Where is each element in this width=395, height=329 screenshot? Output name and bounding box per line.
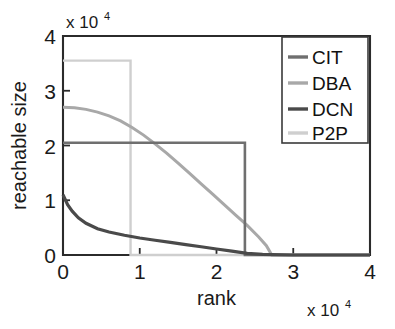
x-multiplier-exponent: 4: [345, 298, 351, 310]
x-tick-label-1: 1: [134, 260, 146, 283]
y-tick-label-4: 4: [44, 25, 56, 48]
x-axis-multiplier: x 10 4: [307, 298, 351, 320]
x-multiplier-base: x 10: [307, 301, 339, 320]
line-chart: 0 1 2 3 4 0 1 2 3 4 x 10 4 x 10 4 rank r…: [0, 0, 395, 329]
y-tick-label-2: 2: [44, 135, 56, 158]
y-tick-label-3: 3: [44, 80, 56, 103]
x-tick-label-2: 2: [211, 260, 223, 283]
x-tick-label-4: 4: [364, 260, 376, 283]
y-multiplier-exponent: 4: [104, 10, 110, 22]
legend-label-cit: CIT: [312, 47, 343, 68]
series-line-DCN: [63, 195, 370, 255]
x-tick-labels: 0 1 2 3 4: [57, 260, 376, 283]
y-axis-label: reachable size: [8, 81, 30, 210]
y-tick-label-0: 0: [44, 244, 56, 267]
y-axis-multiplier: x 10 4: [66, 10, 110, 32]
y-tick-label-1: 1: [44, 189, 56, 212]
legend-label-dcn: DCN: [312, 99, 353, 120]
x-tick-label-3: 3: [287, 260, 299, 283]
legend-label-dba: DBA: [312, 73, 351, 94]
chart-figure: 0 1 2 3 4 0 1 2 3 4 x 10 4 x 10 4 rank r…: [0, 0, 395, 329]
legend-label-p2p: P2P: [312, 123, 348, 144]
x-axis-label: rank: [197, 287, 237, 309]
x-tick-label-0: 0: [57, 260, 69, 283]
legend[interactable]: CIT DBA DCN P2P: [282, 37, 368, 144]
y-tick-labels: 0 1 2 3 4: [44, 25, 56, 267]
y-multiplier-base: x 10: [66, 13, 98, 32]
